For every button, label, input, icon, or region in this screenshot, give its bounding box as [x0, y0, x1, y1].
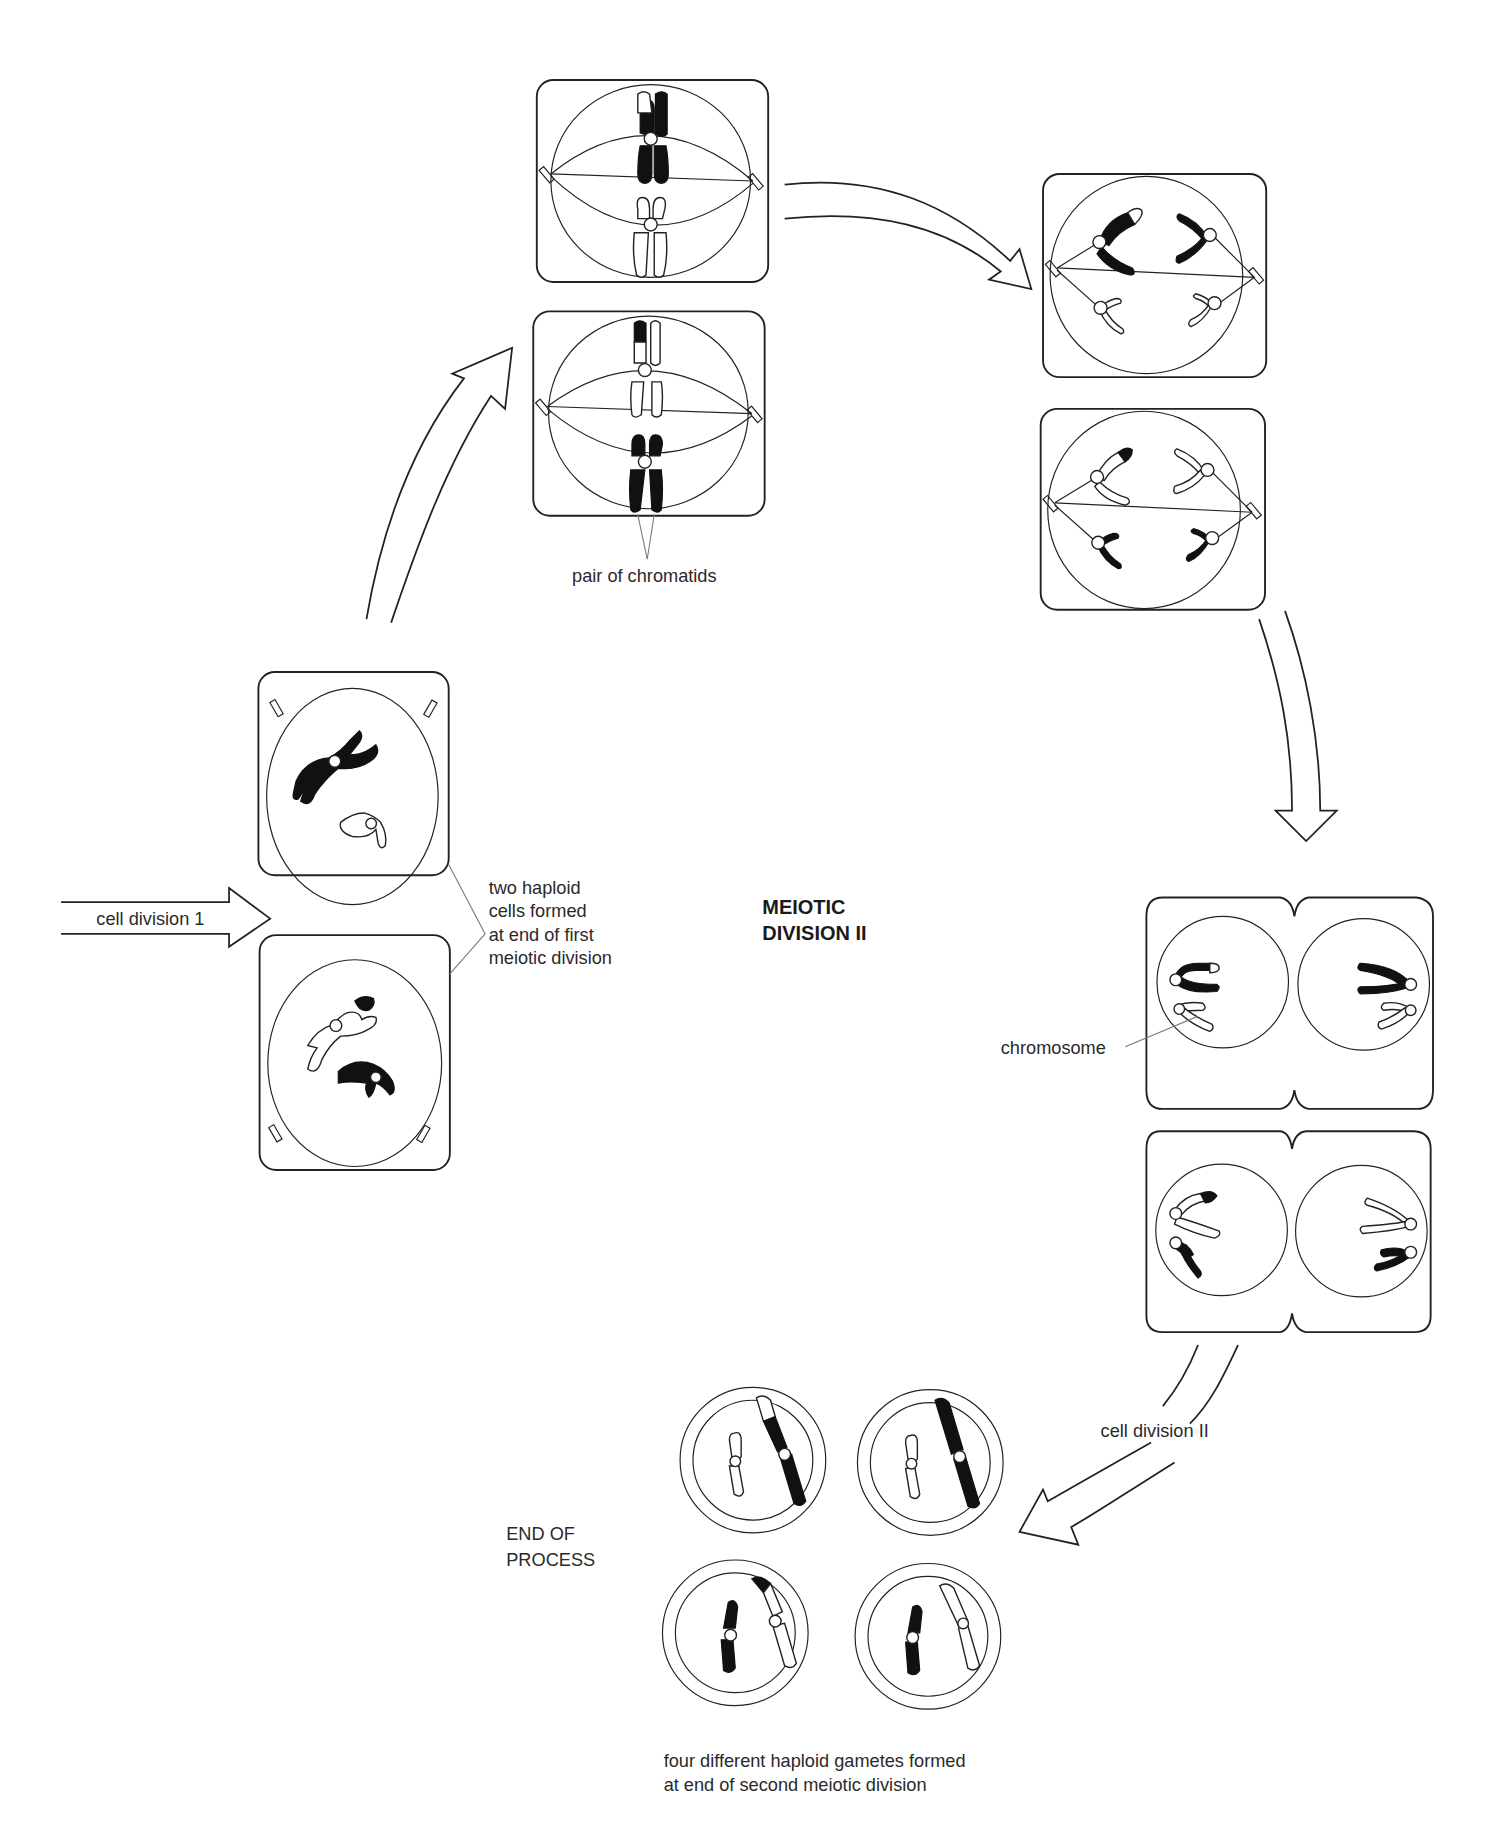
svg-text:two haploid: two haploid	[489, 878, 581, 898]
curved-arrow-icon	[1020, 1345, 1238, 1545]
curved-arrow-icon	[785, 183, 1032, 290]
centriole-icon	[1249, 268, 1264, 284]
centriole-icon	[1045, 261, 1060, 277]
cell-division-2-label: cell division II	[1101, 1421, 1209, 1441]
diagram-title: MEIOTIC DIVISION II	[762, 896, 866, 944]
bracket-pointer	[449, 865, 485, 974]
chromosome-label: chromosome	[1001, 1038, 1106, 1058]
svg-text:END OF: END OF	[506, 1524, 575, 1544]
haploid-cell-top	[258, 672, 448, 905]
gametes-label: four different haploid gametes formed at…	[664, 1751, 966, 1796]
gamete-2	[857, 1390, 1003, 1536]
svg-text:at end of first: at end of first	[489, 925, 594, 945]
meiosis-diagram: two haploid cells formed at end of first…	[0, 0, 1507, 1842]
centriole-icon	[270, 700, 283, 717]
centriole-icon	[1246, 503, 1261, 519]
svg-text:DIVISION II: DIVISION II	[762, 922, 866, 944]
anaphase-cell-bottom	[1041, 409, 1265, 610]
gamete-3	[662, 1560, 808, 1706]
pair-of-chromatids-label: pair of chromatids	[572, 566, 717, 586]
svg-text:four different haploid gametes: four different haploid gametes formed	[664, 1751, 966, 1771]
svg-text:MEIOTIC: MEIOTIC	[762, 896, 845, 918]
telophase-cell-bottom	[1146, 1131, 1430, 1332]
svg-text:at end of second meiotic divis: at end of second meiotic division	[664, 1775, 927, 1795]
cell-division-1-label: cell division 1	[96, 909, 204, 929]
metaphase-cell-top	[537, 80, 768, 282]
nucleus	[1156, 1164, 1288, 1296]
svg-text:PROCESS: PROCESS	[506, 1550, 595, 1570]
gamete-4	[855, 1564, 1001, 1710]
gamete-1	[680, 1387, 826, 1533]
haploid-cells-label: two haploid cells formed at end of first…	[489, 878, 612, 968]
centriole-icon	[424, 700, 437, 717]
curved-arrow-icon	[1259, 611, 1337, 841]
metaphase-cell-bottom	[533, 311, 764, 559]
anaphase-cell-top	[1043, 174, 1266, 377]
centriole-icon	[1043, 495, 1058, 511]
haploid-cell-bottom	[260, 935, 450, 1170]
curved-arrow-icon	[366, 348, 512, 623]
svg-text:cells formed: cells formed	[489, 901, 587, 921]
telophase-cell-top	[1125, 898, 1433, 1109]
svg-text:meiotic division: meiotic division	[489, 948, 612, 968]
end-of-process-label: END OF PROCESS	[506, 1524, 595, 1570]
centriole-icon	[269, 1125, 282, 1142]
centriole-icon	[747, 406, 762, 422]
